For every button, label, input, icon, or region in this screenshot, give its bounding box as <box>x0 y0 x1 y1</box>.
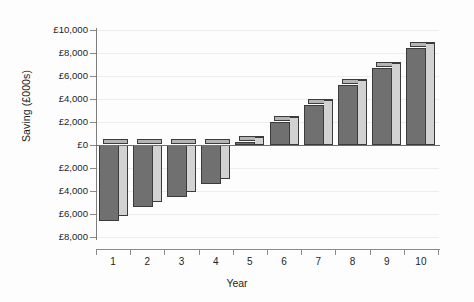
bar-year-2 <box>133 145 153 207</box>
bar-side-face <box>426 43 435 145</box>
y-axis-line <box>96 28 97 240</box>
y-tick-label: £6,000 <box>30 70 88 81</box>
y-tick-label: £4,000 <box>30 93 88 104</box>
bar-year-4 <box>201 145 221 184</box>
x-tick <box>164 249 165 255</box>
bar-top-face <box>205 139 230 144</box>
bar-top-face <box>137 139 162 144</box>
bar-side-face <box>119 145 128 216</box>
bar-top-face <box>171 139 196 144</box>
gridline <box>97 237 439 238</box>
gridline <box>97 214 439 215</box>
x-tick <box>335 249 336 255</box>
x-tick <box>301 249 302 255</box>
bar-side-face <box>392 63 401 145</box>
x-tick <box>370 249 371 255</box>
x-axis-line <box>96 249 440 250</box>
zero-baseline <box>96 145 440 146</box>
bar-side-face <box>255 137 264 145</box>
bar-side-face <box>187 145 196 192</box>
x-tick-label: 4 <box>201 256 231 267</box>
gridline <box>97 53 439 54</box>
y-tick-label: £0 <box>30 139 88 150</box>
x-tick-label: 8 <box>338 256 368 267</box>
x-tick-label: 5 <box>235 256 265 267</box>
x-tick-label: 3 <box>167 256 197 267</box>
x-tick <box>267 249 268 255</box>
bar-side-face <box>221 145 230 179</box>
x-axis-title: Year <box>0 277 474 289</box>
y-tick-label: £10,000 <box>30 24 88 35</box>
bar-year-8 <box>338 85 358 145</box>
bar-year-1 <box>99 145 119 221</box>
bar-front-face <box>338 85 358 145</box>
bar-front-face <box>270 122 290 145</box>
y-tick-label: £8,000 <box>30 47 88 58</box>
bar-front-face <box>201 145 221 184</box>
bar-top-face <box>103 139 128 144</box>
y-tick-label: £6,000 <box>30 208 88 219</box>
bar-side-face <box>153 145 162 202</box>
x-tick <box>233 249 234 255</box>
bar-front-face <box>372 68 392 145</box>
bar-side-face <box>290 117 299 145</box>
x-tick <box>404 249 405 255</box>
x-tick <box>438 249 439 255</box>
gridline <box>97 30 439 31</box>
y-tick-label: £4,000 <box>30 185 88 196</box>
bar-side-face <box>324 100 333 145</box>
x-tick-label: 1 <box>98 256 128 267</box>
x-tick-label: 2 <box>132 256 162 267</box>
x-tick <box>96 249 97 255</box>
bar-front-face <box>99 145 119 221</box>
x-tick-label: 9 <box>372 256 402 267</box>
x-tick-label: 10 <box>406 256 436 267</box>
bar-year-10 <box>406 48 426 145</box>
y-tick-label: £8,000 <box>30 231 88 242</box>
bar-front-face <box>406 48 426 145</box>
bar-front-face <box>167 145 187 197</box>
y-tick-label: £2,000 <box>30 162 88 173</box>
bar-chart: Saving (£000s) £10,000£8,000£6,000£4,000… <box>0 0 474 302</box>
y-tick-label: £2,000 <box>30 116 88 127</box>
bar-side-face <box>358 80 367 145</box>
x-tick-label: 7 <box>303 256 333 267</box>
bar-front-face <box>133 145 153 207</box>
bar-year-7 <box>304 105 324 145</box>
bar-year-6 <box>270 122 290 145</box>
x-tick-label: 6 <box>269 256 299 267</box>
x-tick <box>130 249 131 255</box>
y-axis-tick-labels: £10,000£8,000£6,000£4,000£2,000£0£2,000£… <box>26 0 88 302</box>
bar-year-9 <box>372 68 392 145</box>
x-tick <box>199 249 200 255</box>
bar-front-face <box>304 105 324 145</box>
bar-year-3 <box>167 145 187 197</box>
